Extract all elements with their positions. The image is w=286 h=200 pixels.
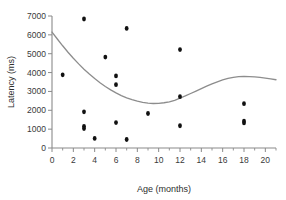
data-point — [242, 101, 246, 106]
x-tick-label: 0 — [50, 155, 55, 165]
chart-figure: 01000200030004000500060007000 0246810121… — [0, 0, 286, 200]
x-tick-label: 12 — [175, 155, 185, 165]
data-point — [61, 72, 65, 77]
data-point — [82, 126, 86, 131]
x-tick-label: 16 — [218, 155, 228, 165]
x-tick-label: 20 — [261, 155, 271, 165]
x-tick-label: 4 — [92, 155, 97, 165]
y-tick-label: 4000 — [27, 68, 46, 78]
data-point — [114, 82, 118, 87]
y-tick-label: 3000 — [27, 86, 46, 96]
trend-curve — [52, 32, 276, 103]
data-point — [178, 94, 182, 99]
data-point — [178, 123, 182, 128]
y-axis-tick-labels: 01000200030004000500060007000 — [27, 11, 46, 153]
data-point — [146, 111, 150, 116]
y-axis-title: Latency (ms) — [6, 56, 16, 108]
data-point — [114, 74, 118, 79]
y-tick-label: 0 — [41, 143, 46, 153]
y-tick-label: 7000 — [27, 11, 46, 21]
scatter-plot: 01000200030004000500060007000 0246810121… — [0, 0, 286, 200]
x-tick-label: 10 — [154, 155, 164, 165]
data-point — [82, 109, 86, 114]
x-tick-label: 18 — [239, 155, 249, 165]
data-point — [103, 55, 107, 60]
x-tick-label: 14 — [197, 155, 207, 165]
data-point — [125, 137, 129, 142]
data-points — [61, 17, 246, 142]
data-point — [178, 47, 182, 52]
data-point — [82, 17, 86, 22]
x-axis-ticks — [52, 148, 276, 152]
y-tick-label: 2000 — [27, 105, 46, 115]
x-tick-label: 8 — [135, 155, 140, 165]
x-tick-label: 2 — [71, 155, 76, 165]
data-point — [114, 120, 118, 125]
data-point — [125, 26, 129, 31]
y-tick-label: 5000 — [27, 49, 46, 59]
y-tick-label: 1000 — [27, 124, 46, 134]
y-tick-label: 6000 — [27, 30, 46, 40]
x-axis-title: Age (months) — [137, 184, 191, 194]
y-axis-ticks — [48, 16, 52, 148]
data-point — [242, 121, 246, 126]
data-point — [93, 136, 97, 141]
x-axis-tick-labels: 02468101214161820 — [50, 155, 271, 165]
x-tick-label: 6 — [114, 155, 119, 165]
